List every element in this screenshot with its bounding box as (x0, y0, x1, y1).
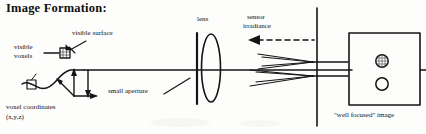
ray-cone-upper (258, 54, 313, 69)
ray-cone-lower (250, 70, 313, 86)
label-small-aperture: small aperture (108, 88, 148, 95)
label-irradiance: irradiance (243, 23, 271, 30)
label-well-focused-image: "well focused" image (334, 112, 394, 119)
lens-element (202, 34, 221, 102)
small-aperture-leader (164, 78, 190, 94)
scan-artifact (240, 120, 280, 127)
label-voxel-coordinates: voxel coordinates (6, 104, 56, 111)
label-sensor: sensor (247, 14, 265, 21)
label-visible-surface: visible surface (72, 30, 113, 37)
focused-spot-open (376, 78, 388, 90)
square-leader-line (32, 74, 37, 80)
label-lens: lens (197, 16, 208, 23)
sensor-irradiance-arrow (248, 35, 314, 45)
label-xyz: (x,y,z) (6, 114, 24, 121)
label-voxels: voxels (14, 53, 32, 60)
sensor-frame (349, 33, 420, 105)
slide-canvas: Image Formation: visible voxels visible … (0, 0, 426, 134)
scan-artifact (150, 118, 210, 127)
visible-surface-leader (70, 41, 86, 50)
label-visible: visible (14, 44, 33, 51)
page-title: Image Formation: (6, 2, 107, 15)
